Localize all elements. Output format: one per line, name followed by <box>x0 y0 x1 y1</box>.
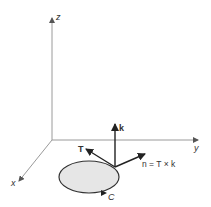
region: C <box>59 161 119 202</box>
region-ellipse <box>59 161 119 193</box>
T-vector-label: T <box>78 144 84 154</box>
z-axis-label: z <box>55 12 61 22</box>
n-vector <box>115 154 145 167</box>
x-axis-label: x <box>10 178 16 188</box>
x-axis <box>19 140 52 181</box>
n-vector-label: n = T × k <box>142 159 176 169</box>
k-vector-label: k <box>119 123 125 133</box>
vector-diagram: z y x C k T n = T × k <box>0 0 211 207</box>
y-axis-label: y <box>193 143 199 153</box>
curve-label: C <box>108 192 115 202</box>
